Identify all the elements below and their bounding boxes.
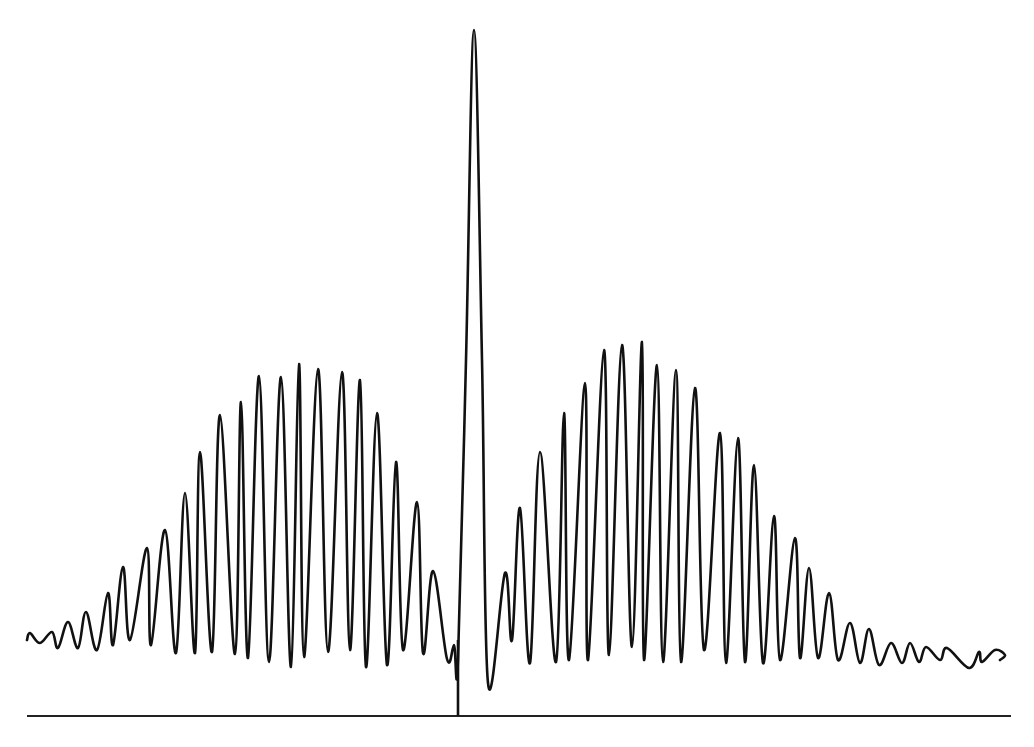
- signal-trace: [27, 30, 1005, 690]
- waveform-plot: [0, 0, 1034, 747]
- waveform-figure: [0, 0, 1034, 747]
